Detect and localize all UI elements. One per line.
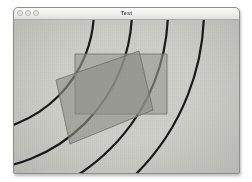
close-button[interactable] — [17, 10, 23, 16]
zoom-button[interactable] — [33, 10, 39, 16]
application-window: Test — [13, 7, 240, 174]
window-controls — [17, 10, 39, 16]
drawing-canvas[interactable] — [14, 20, 239, 173]
canvas-svg — [14, 20, 239, 173]
minimize-button[interactable] — [25, 10, 31, 16]
screenshot-root: Test — [0, 0, 252, 182]
window-titlebar[interactable]: Test — [14, 8, 239, 20]
window-title: Test — [14, 8, 239, 19]
